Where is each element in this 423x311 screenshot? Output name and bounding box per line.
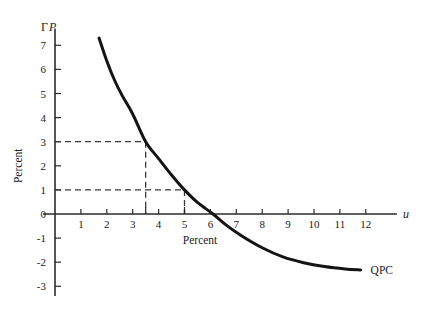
price-symbol: P bbox=[48, 20, 57, 34]
x-tick-label-5: 5 bbox=[182, 218, 188, 230]
x-tick-label-1: 1 bbox=[78, 218, 84, 230]
x-tick-label-10: 10 bbox=[309, 218, 321, 230]
y-tick-label-1: 1 bbox=[41, 184, 47, 196]
y-tick-label--1: -1 bbox=[37, 232, 46, 244]
y-tick-label-7: 7 bbox=[41, 39, 47, 51]
y-tick-label--3: -3 bbox=[37, 280, 47, 292]
qpc-chart-svg: 123456789101112 76543210-1-2-3 QPC Perce… bbox=[0, 0, 423, 311]
x-tick-label-8: 8 bbox=[259, 218, 265, 230]
y-tick-label-0: 0 bbox=[41, 208, 47, 220]
x-axis-ticks: 123456789101112 bbox=[78, 209, 371, 230]
x-axis-title: Percent bbox=[183, 234, 218, 246]
qpc-curve-label: QPC bbox=[371, 264, 394, 276]
dashed-guide-lines bbox=[55, 142, 185, 214]
y-tick-label-5: 5 bbox=[41, 88, 47, 100]
chart-container: 123456789101112 76543210-1-2-3 QPC Perce… bbox=[0, 0, 423, 311]
x-axis-variable-symbol: u bbox=[403, 207, 409, 221]
y-tick-label-3: 3 bbox=[41, 136, 47, 148]
axes-group bbox=[43, 28, 397, 296]
x-tick-label-6: 6 bbox=[208, 218, 214, 230]
x-tick-label-9: 9 bbox=[285, 218, 291, 230]
x-tick-label-2: 2 bbox=[104, 218, 110, 230]
x-tick-label-11: 11 bbox=[335, 218, 346, 230]
y-tick-label-6: 6 bbox=[41, 63, 47, 75]
y-tick-label-2: 2 bbox=[41, 160, 47, 172]
y-axis-variable-symbol: Γ P bbox=[41, 20, 57, 34]
x-tick-label-4: 4 bbox=[156, 218, 162, 230]
x-tick-label-12: 12 bbox=[360, 218, 371, 230]
qpc-curve bbox=[99, 38, 361, 270]
y-axis-title: Percent bbox=[12, 148, 24, 183]
gamma-symbol: Γ bbox=[41, 20, 48, 34]
y-tick-label--2: -2 bbox=[37, 256, 46, 268]
y-axis-ticks: 76543210-1-2-3 bbox=[37, 39, 61, 292]
y-tick-label-4: 4 bbox=[41, 112, 47, 124]
x-tick-label-7: 7 bbox=[234, 218, 240, 230]
x-tick-label-3: 3 bbox=[130, 218, 136, 230]
